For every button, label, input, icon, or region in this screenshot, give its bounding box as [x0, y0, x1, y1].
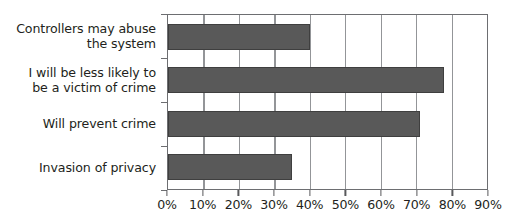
bar-will-prevent-crime: [168, 111, 420, 137]
category-label: I will be less likely to be a victim of …: [0, 58, 163, 102]
axis-tick-label: 70%: [403, 197, 430, 212]
axis-tick: [452, 190, 453, 196]
category-label: Controllers may abuse the system: [0, 14, 163, 58]
axis-tick-label: 30%: [260, 197, 287, 212]
bar-chart: Controllers may abuse the system I will …: [0, 0, 520, 222]
bar-invasion-of-privacy: [168, 154, 292, 180]
bar-series: [168, 15, 487, 189]
category-label: Will prevent crime: [0, 102, 163, 146]
axis-tick: [487, 190, 488, 196]
bar-row: [168, 146, 487, 190]
plot-area: [167, 14, 488, 190]
axis-tick-label: 50%: [332, 197, 359, 212]
bar-controllers-may-abuse-the-system: [168, 24, 310, 50]
axis-tick: [309, 190, 310, 196]
axis-tick-label: 10%: [189, 197, 216, 212]
axis-tick-label: 80%: [439, 197, 466, 212]
axis-tick-label: 20%: [225, 197, 252, 212]
bar-row: [168, 15, 487, 59]
axis-tick-label: 90%: [474, 197, 501, 212]
axis-tick-label: 0%: [157, 197, 177, 212]
axis-tick-label: 40%: [296, 197, 323, 212]
category-axis-labels: Controllers may abuse the system I will …: [0, 14, 163, 190]
value-axis: 0%10%20%30%40%50%60%70%80%90%: [167, 190, 488, 222]
axis-tick: [166, 190, 167, 196]
bar-less-likely-victim-of-crime: [168, 67, 444, 93]
axis-tick-label: 60%: [367, 197, 394, 212]
axis-tick: [345, 190, 346, 196]
category-label: Invasion of privacy: [0, 146, 163, 190]
bar-row: [168, 59, 487, 103]
bar-row: [168, 102, 487, 146]
axis-tick: [273, 190, 274, 196]
axis-tick: [202, 190, 203, 196]
axis-tick: [238, 190, 239, 196]
axis-tick: [416, 190, 417, 196]
axis-tick: [380, 190, 381, 196]
